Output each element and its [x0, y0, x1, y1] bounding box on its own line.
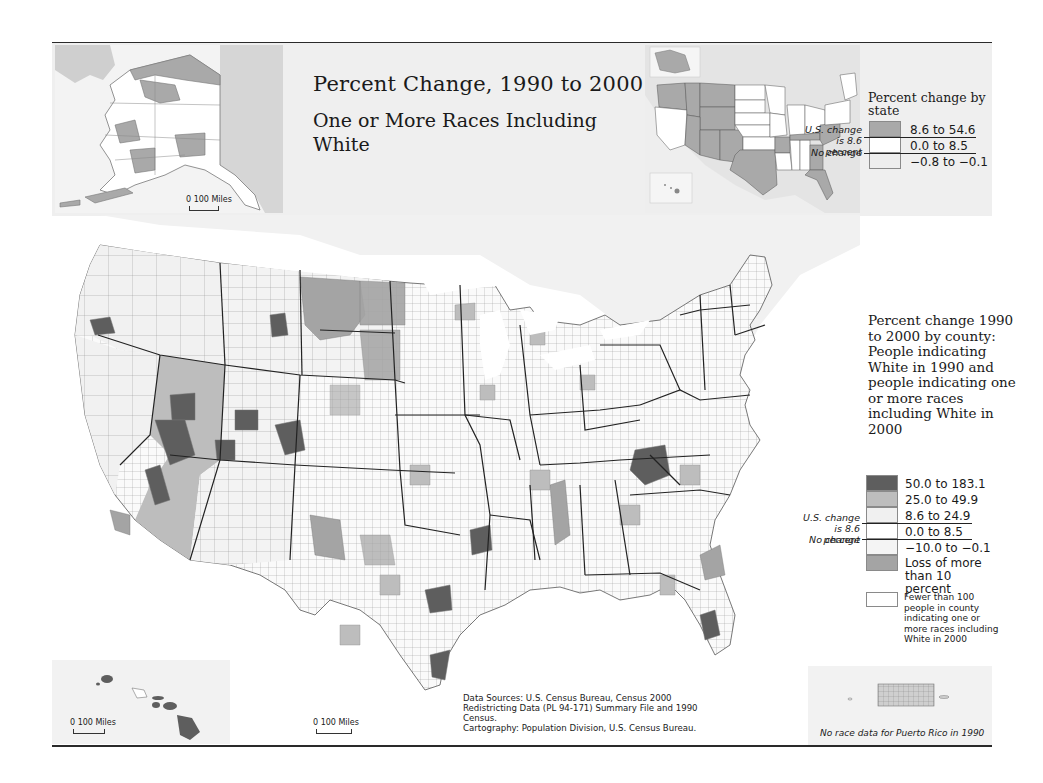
county-legend-swatch-50-183 — [866, 475, 898, 491]
bottom-rule — [52, 745, 992, 747]
county-legend-swatch-fewer — [866, 592, 898, 607]
data-sources-text: Data Sources: U.S. Census Bureau, Census… — [463, 693, 723, 723]
county-legend-swatch-25-49 — [866, 491, 898, 507]
main-scale-label: 0 100 Miles — [313, 718, 359, 727]
county-legend-label-8-24: 8.6 to 24.9 — [905, 509, 970, 523]
state-legend-label-high: 8.6 to 54.6 — [910, 123, 975, 137]
state-legend-us-line — [864, 137, 976, 138]
title-block: Percent Change, 1990 to 2000 One or More… — [313, 72, 643, 156]
alaska-inset — [55, 45, 283, 213]
state-legend-title: Percent change by state — [868, 91, 988, 117]
county-legend-label-50-183: 50.0 to 183.1 — [905, 477, 986, 491]
county-legend-nochange-note: No change — [809, 534, 860, 545]
main-us-county-map — [60, 215, 860, 710]
state-legend-swatch-mid — [869, 137, 901, 153]
state-legend-swatch-low — [869, 153, 901, 169]
map-subtitle: One or More Races Including White — [313, 108, 613, 156]
state-legend-nochange-note: No change — [811, 147, 862, 158]
county-legend-swatch-neg10-0 — [866, 539, 898, 555]
data-sources: Data Sources: U.S. Census Bureau, Census… — [463, 693, 723, 733]
main-scale-bar: 0 100 Miles — [313, 718, 359, 727]
map-title: Percent Change, 1990 to 2000 — [313, 72, 643, 96]
county-legend-title: Percent change 1990 to 2000 by county: P… — [868, 313, 1018, 437]
cartography-credit: Cartography: Population Division, U.S. C… — [463, 723, 723, 733]
county-legend-nochange-line — [862, 539, 972, 540]
puerto-rico-note: No race data for Puerto Rico in 1990 — [820, 728, 984, 738]
alaska-scale-label: 0 100 Miles — [186, 195, 232, 204]
alaska-scale-bar: 0 100 Miles — [186, 195, 232, 204]
state-legend-nochange-line — [864, 153, 976, 154]
state-legend-swatch-high — [869, 121, 901, 137]
county-legend-label-neg10-0: −10.0 to −0.1 — [905, 541, 991, 555]
county-legend-label-loss: Loss of more than 10 percent — [905, 557, 1000, 596]
state-legend-label-mid: 0.0 to 8.5 — [910, 139, 968, 153]
alaska-map — [55, 45, 283, 213]
hawaii-scale-label: 0 100 Miles — [70, 718, 116, 727]
county-legend-swatch-0-8 — [866, 523, 898, 539]
county-legend-swatch-loss — [866, 555, 898, 571]
county-legend-fewer-note: Fewer than 100 people in county indicati… — [904, 592, 999, 645]
state-legend-label-low: −0.8 to −0.1 — [910, 155, 988, 169]
county-legend-us-line — [862, 523, 972, 524]
county-legend-swatch-8-24 — [866, 507, 898, 523]
county-legend-label-25-49: 25.0 to 49.9 — [905, 493, 978, 507]
hawaii-scale-bar: 0 100 Miles — [70, 718, 116, 727]
county-legend-label-0-8: 0.0 to 8.5 — [905, 525, 963, 539]
